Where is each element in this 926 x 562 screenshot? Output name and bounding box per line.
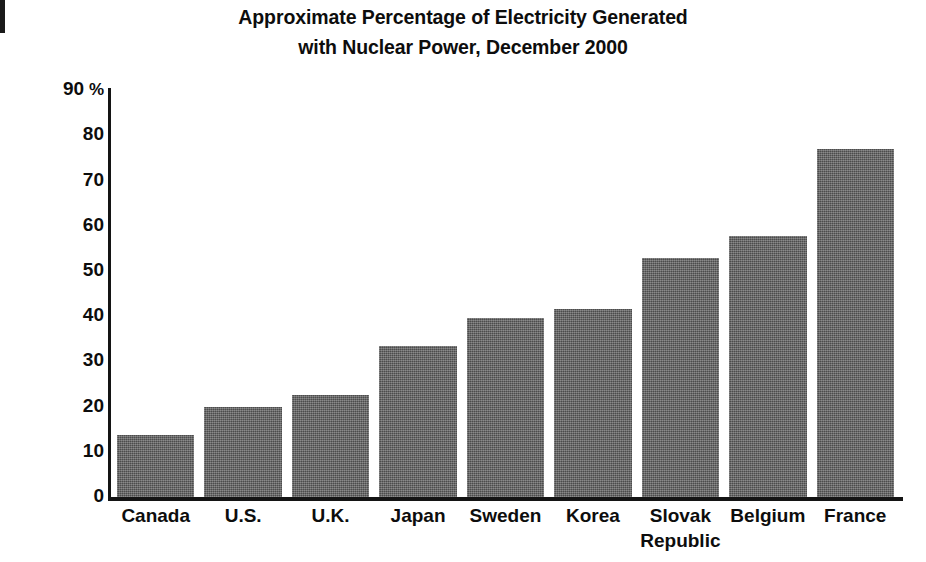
y-tick-20: 20 <box>20 396 104 416</box>
y-axis-line <box>108 88 111 499</box>
x-tick-label-7: Belgium <box>718 503 817 528</box>
y-tick-60: 60 <box>20 215 104 235</box>
y-tick-80: 80 <box>20 124 104 144</box>
x-axis-tick-labels: CanadaU.S.U.K.JapanSwedenKoreaSlovak Rep… <box>112 503 902 562</box>
bar-korea <box>554 309 631 497</box>
y-tick-0: 0 <box>20 486 104 506</box>
x-tick-label-8: France <box>806 503 905 528</box>
y-axis-tick-labels: 0102030405060708090 % <box>20 0 104 562</box>
bar-u-k <box>292 395 369 497</box>
y-tick-50: 50 <box>20 260 104 280</box>
x-tick-label-3: Japan <box>368 503 467 528</box>
y-tick-10: 10 <box>20 441 104 461</box>
bar-japan <box>379 346 456 497</box>
bar-series <box>112 0 902 562</box>
bar-sweden <box>467 318 544 497</box>
bar-belgium <box>729 236 806 497</box>
bar-chart-figure: Approximate Percentage of Electricity Ge… <box>0 0 926 562</box>
x-tick-label-5: Korea <box>543 503 642 528</box>
y-tick-30: 30 <box>20 350 104 370</box>
y-tick-70: 70 <box>20 170 104 190</box>
x-tick-label-0: Canada <box>106 503 205 528</box>
x-tick-label-4: Sweden <box>456 503 555 528</box>
x-tick-label-1: U.S. <box>193 503 292 528</box>
bar-slovak-republic <box>642 258 719 497</box>
x-tick-label-6: Slovak Republic <box>631 503 730 553</box>
bar-france <box>817 149 894 497</box>
bar-u-s <box>204 407 281 497</box>
bar-canada <box>117 435 194 497</box>
y-tick-90: 90 % <box>20 79 104 100</box>
y-tick-40: 40 <box>20 305 104 325</box>
x-tick-label-2: U.K. <box>281 503 380 528</box>
